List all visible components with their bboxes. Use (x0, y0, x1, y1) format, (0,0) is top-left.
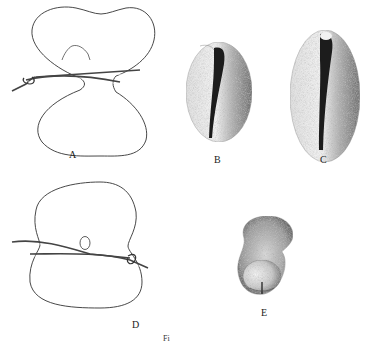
panel-label-b: B (214, 154, 221, 165)
panel-label-e: E (261, 307, 267, 318)
panel-b-drawing (186, 42, 252, 142)
figure-drawings (0, 0, 367, 343)
panel-label-c: C (320, 154, 327, 165)
panel-e-drawing (238, 216, 293, 294)
panel-c-drawing (290, 30, 360, 162)
figure-caption: Fi (163, 334, 170, 343)
panel-label-d: D (132, 319, 139, 330)
panel-a-drawing (12, 7, 155, 156)
panel-d-drawing (12, 182, 148, 308)
panel-label-a: A (69, 149, 76, 160)
scientific-figure: A B C D E Fi (0, 0, 367, 343)
